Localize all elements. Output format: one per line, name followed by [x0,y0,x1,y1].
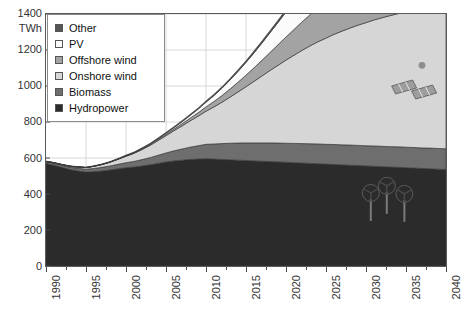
x-tick-minor-mark [346,267,347,270]
x-tick-mark [406,267,407,272]
x-tick-label: 2040 [450,275,462,299]
x-tick-label: 2015 [250,275,262,299]
legend-item-onshore-wind: Onshore wind [55,68,158,84]
y-tick-label: 1000 [2,80,42,91]
x-tick-minor-mark [426,267,427,270]
legend-item-biomass: Biomass [55,84,158,100]
x-tick-label: 1990 [50,275,62,299]
x-tick-label: 1995 [90,275,102,299]
x-axis: 1990199520002005201020152020202520302035… [45,267,447,314]
x-tick-minor-mark [266,267,267,270]
x-tick-minor-mark [306,267,307,270]
x-tick-mark [326,267,327,272]
legend-label: Biomass [69,86,111,98]
x-tick-label: 2005 [170,275,182,299]
y-tick-label: 400 [2,189,42,200]
legend-swatch-icon [55,40,63,48]
y-axis-unit-label: TWh [2,22,42,34]
legend-label: PV [69,38,84,50]
y-tick-label: 0 [2,261,42,272]
legend-item-offshore-wind: Offshore wind [55,52,158,68]
y-tick-label: 600 [2,153,42,164]
legend-item-pv: PV [55,36,158,52]
x-tick-minor-mark [226,267,227,270]
x-tick-minor-mark [386,267,387,270]
legend-swatch-icon [55,104,63,112]
x-tick-mark [366,267,367,272]
x-tick-mark [446,267,447,272]
legend-item-other: Other [55,20,158,36]
legend-swatch-icon [55,24,63,32]
x-tick-mark [86,267,87,272]
chart-screenshot: 1400 TWh 1200 1000 800 600 400 200 0 Oth… [0,0,463,314]
y-tick-label: 800 [2,116,42,127]
y-axis: 1400 TWh 1200 1000 800 600 400 200 0 [0,0,42,280]
y-tick-label: 1200 [2,44,42,55]
x-tick-mark [46,267,47,272]
x-tick-minor-mark [186,267,187,270]
x-tick-label: 2020 [290,275,302,299]
x-tick-minor-mark [106,267,107,270]
legend-swatch-icon [55,88,63,96]
x-tick-mark [246,267,247,272]
x-tick-mark [166,267,167,272]
x-tick-label: 2010 [210,275,222,299]
legend-label: Other [69,22,97,34]
legend-label: Offshore wind [69,54,137,66]
legend-item-hydropower: Hydropower [55,100,158,116]
x-tick-mark [126,267,127,272]
x-tick-label: 2030 [370,275,382,299]
legend-label: Onshore wind [69,70,137,82]
x-tick-label: 2025 [330,275,342,299]
legend-swatch-icon [55,56,63,64]
x-tick-mark [286,267,287,272]
x-tick-mark [206,267,207,272]
sun-icon [419,62,426,69]
x-tick-label: 2035 [410,275,422,299]
chart-legend: Other PV Offshore wind Onshore wind Biom… [47,14,165,122]
x-tick-label: 2000 [130,275,142,299]
x-tick-minor-mark [66,267,67,270]
x-tick-minor-mark [146,267,147,270]
legend-swatch-icon [55,72,63,80]
y-tick-label: 200 [2,225,42,236]
legend-label: Hydropower [69,102,128,114]
y-tick-label: 1400 [2,8,42,19]
